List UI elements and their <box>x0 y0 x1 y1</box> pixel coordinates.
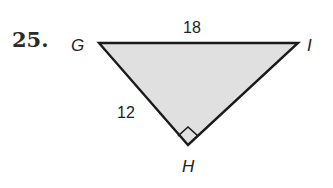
side-label-gi: 18 <box>183 19 201 36</box>
problem-number: 25. <box>12 27 49 52</box>
triangle-ghi <box>99 43 298 145</box>
vertex-label-i: I <box>307 36 312 55</box>
side-label-gh: 12 <box>117 104 135 121</box>
vertex-label-h: H <box>182 157 195 176</box>
vertex-label-g: G <box>71 36 84 55</box>
triangle-diagram: 25. G H I 18 12 <box>0 0 333 188</box>
